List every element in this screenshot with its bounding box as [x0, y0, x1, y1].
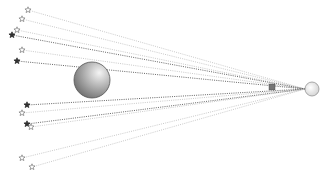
filled-star-icon [14, 58, 20, 64]
light-ray-line [31, 89, 305, 127]
light-ray-line [17, 30, 305, 89]
filled-star-icon [24, 102, 30, 108]
light-ray-line [17, 61, 305, 89]
light-ray-line [32, 89, 305, 167]
light-ray-line [22, 50, 305, 89]
light-ray-line [27, 89, 305, 105]
gravitational-lensing-diagram [0, 0, 329, 179]
light-ray-line [12, 35, 305, 89]
outline-star-icon [19, 110, 25, 116]
outline-star-icon [29, 164, 35, 170]
cube-icon [269, 84, 275, 90]
observer-sphere [305, 82, 319, 96]
outline-star-icon [14, 27, 20, 33]
lens-sphere-shape [74, 62, 110, 98]
light-ray-line [22, 89, 305, 158]
outline-star-icon [19, 155, 25, 161]
observer-sphere-shape [305, 82, 319, 96]
light-ray-line [28, 10, 305, 89]
small-cube [269, 84, 275, 90]
light-ray-line [22, 19, 305, 89]
light-ray-lines [12, 10, 305, 167]
outline-star-icon [19, 47, 25, 53]
outline-star-icon [25, 7, 31, 13]
outline-star-icon [19, 16, 25, 22]
diagram-canvas [0, 0, 329, 179]
outline-star-icon [28, 124, 34, 130]
light-ray-line [27, 89, 305, 124]
filled-star-icon [9, 32, 15, 38]
lens-sphere [74, 62, 110, 98]
